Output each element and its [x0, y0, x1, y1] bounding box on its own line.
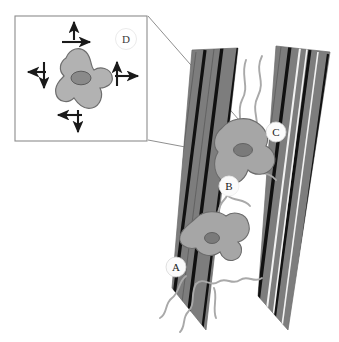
diagram-svg: A B C [0, 0, 339, 342]
label-b[interactable]: B [219, 176, 239, 196]
inset-panel[interactable]: D [15, 16, 147, 141]
cell-lower-nucleus [205, 233, 220, 244]
label-a-text: A [172, 261, 180, 273]
label-c-text: C [272, 126, 279, 138]
label-d[interactable]: D [116, 29, 137, 50]
label-b-text: B [225, 180, 232, 192]
label-d-text: D [122, 33, 130, 45]
inset-cell-nucleus [71, 71, 91, 85]
label-c[interactable]: C [266, 122, 286, 142]
cell-upper-nucleus [234, 144, 253, 157]
label-a[interactable]: A [166, 257, 186, 277]
filament-lower-stub [214, 288, 216, 318]
figure-canvas: A B C [0, 0, 339, 342]
